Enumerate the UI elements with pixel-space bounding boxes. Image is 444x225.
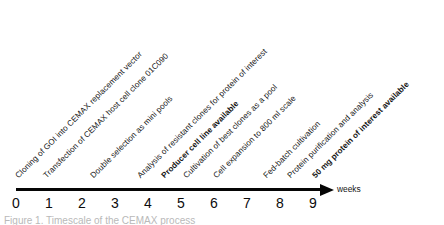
axis-tick-3: 3 (105, 195, 125, 211)
axis-tick-7: 7 (237, 195, 257, 211)
axis-tick-8: 8 (270, 195, 290, 211)
timeline-axis-line (16, 188, 328, 191)
figure-caption: Figure 1. Timescale of the CEMAX process (4, 215, 440, 225)
axis-unit-label: weeks (337, 184, 361, 194)
milestone-label-protein-available: 50 mg protein of interest available (311, 80, 411, 180)
axis-tick-6: 6 (204, 195, 224, 211)
milestone-label-double-selection: Double selection as mini pools (89, 94, 175, 180)
milestone-label-cloning: Cloning of GOI into CEMAX replacement ve… (14, 50, 144, 180)
axis-tick-2: 2 (72, 195, 92, 211)
axis-tick-4: 4 (138, 195, 158, 211)
axis-tick-9: 9 (303, 195, 323, 211)
axis-tick-0: 0 (6, 195, 26, 211)
axis-tick-1: 1 (39, 195, 59, 211)
process-timeline-figure: Cloning of GOI into CEMAX replacement ve… (0, 0, 444, 225)
axis-tick-5: 5 (171, 195, 191, 211)
